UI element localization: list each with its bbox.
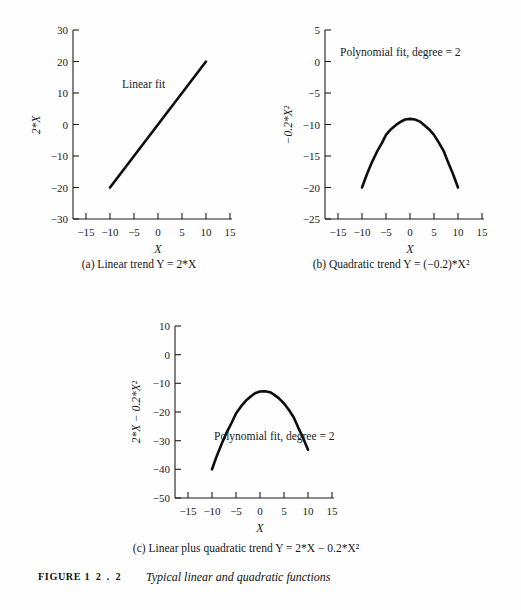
panel-quadratic-trend: 5 0 −5 −10 −15 −20 −25 −15 −10 −5 bbox=[276, 14, 506, 254]
y-tick-label: 5 bbox=[315, 24, 321, 36]
y-tick-label: −20 bbox=[153, 406, 171, 418]
y-tick-label: −15 bbox=[303, 150, 321, 162]
y-tick-label: −10 bbox=[51, 150, 69, 162]
x-axis-title: X bbox=[153, 242, 162, 256]
figure-label: FIGURE 1 2 . 2 bbox=[38, 571, 122, 582]
y-tick-label: 0 bbox=[63, 119, 69, 131]
x-tick-label: −15 bbox=[179, 505, 197, 517]
panel-b-y-ticks bbox=[325, 30, 331, 219]
x-tick-label: −15 bbox=[77, 226, 95, 238]
panel-c-caption: (c) Linear plus quadratic trend Y = 2*X … bbox=[96, 542, 396, 556]
figure-number: 1 2 . 2 bbox=[84, 571, 122, 582]
x-axis-title: X bbox=[255, 521, 264, 535]
y-tick-label: 0 bbox=[315, 56, 321, 68]
panel-a-y-ticks bbox=[73, 30, 79, 219]
y-tick-label: 0 bbox=[165, 349, 171, 361]
x-tick-label: 0 bbox=[407, 226, 413, 238]
panel-a-x-ticks bbox=[86, 213, 230, 219]
panel-b-x-tick-labels: −15 −10 −5 0 5 10 15 bbox=[329, 226, 488, 238]
y-tick-label: 30 bbox=[57, 24, 69, 36]
x-tick-label: −10 bbox=[203, 505, 221, 517]
panel-a-x-tick-labels: −15 −10 −5 0 5 10 15 bbox=[77, 226, 236, 238]
y-tick-label: −40 bbox=[153, 463, 171, 475]
x-tick-label: 0 bbox=[257, 505, 263, 517]
x-tick-label: −5 bbox=[128, 226, 140, 238]
x-tick-label: 10 bbox=[453, 226, 465, 238]
panel-linear-plus-quadratic-trend: 10 0 −10 −20 −30 −40 −50 −15 −10 −5 bbox=[126, 312, 356, 544]
y-tick-label: −25 bbox=[303, 213, 321, 225]
figure-label-prefix: FIGURE bbox=[38, 571, 81, 582]
panel-a-y-tick-labels: 30 20 10 0 −10 −20 −30 bbox=[51, 24, 69, 225]
y-tick-label: −50 bbox=[153, 492, 171, 504]
x-tick-label: 15 bbox=[225, 226, 237, 238]
panel-b-caption: (b) Quadratic trend Y = (−0.2)*X² bbox=[262, 258, 520, 272]
y-tick-label: 10 bbox=[57, 87, 69, 99]
panel-b-x-ticks bbox=[338, 213, 482, 219]
x-tick-label: −10 bbox=[353, 226, 371, 238]
curve-annotation: Linear fit bbox=[122, 78, 166, 90]
y-tick-label: −10 bbox=[153, 377, 171, 389]
figure-page: 30 20 10 0 −10 −20 −30 −15 −10 bbox=[0, 0, 521, 610]
x-tick-label: −5 bbox=[230, 505, 242, 517]
y-tick-label: −10 bbox=[303, 119, 321, 131]
x-tick-label: 5 bbox=[431, 226, 437, 238]
y-tick-label: 20 bbox=[57, 56, 69, 68]
figure-title: Typical linear and quadratic functions bbox=[146, 570, 330, 585]
panel-c-y-ticks bbox=[175, 326, 181, 498]
panel-b-y-tick-labels: 5 0 −5 −10 −15 −20 −25 bbox=[303, 24, 321, 225]
y-axis-title: −0.2*X² bbox=[282, 105, 294, 144]
x-tick-label: −15 bbox=[329, 226, 347, 238]
curve-annotation: Polynomial fit, degree = 2 bbox=[214, 430, 335, 443]
y-tick-label: −30 bbox=[51, 213, 69, 225]
y-tick-label: −30 bbox=[153, 435, 171, 447]
x-tick-label: 5 bbox=[179, 226, 185, 238]
x-axis-title: X bbox=[405, 242, 414, 256]
x-tick-label: 5 bbox=[281, 505, 287, 517]
x-tick-label: 10 bbox=[201, 226, 213, 238]
y-axis-title: 2*X − 0.2*X² bbox=[130, 380, 142, 443]
panel-c-x-tick-labels: −15 −10 −5 0 5 10 15 bbox=[179, 505, 338, 517]
y-tick-label: −20 bbox=[303, 182, 321, 194]
y-axis-title: 2*X bbox=[30, 115, 42, 135]
x-tick-label: −10 bbox=[101, 226, 119, 238]
x-tick-label: 0 bbox=[155, 226, 161, 238]
y-tick-label: −20 bbox=[51, 182, 69, 194]
x-tick-label: 15 bbox=[327, 505, 339, 517]
x-tick-label: 15 bbox=[477, 226, 489, 238]
panel-c-y-tick-labels: 10 0 −10 −20 −30 −40 −50 bbox=[153, 320, 171, 504]
x-tick-label: 10 bbox=[303, 505, 315, 517]
x-tick-label: −5 bbox=[380, 226, 392, 238]
panel-a-caption: (a) Linear trend Y = 2*X bbox=[24, 258, 254, 272]
panel-c-x-ticks bbox=[188, 492, 332, 498]
y-tick-label: −5 bbox=[308, 87, 320, 99]
data-curve-quadratic bbox=[362, 119, 458, 188]
curve-annotation: Polynomial fit, degree = 2 bbox=[340, 46, 461, 59]
panel-b-axes bbox=[325, 30, 484, 219]
panel-c-axes bbox=[175, 326, 334, 498]
panel-linear-trend: 30 20 10 0 −10 −20 −30 −15 −10 bbox=[24, 14, 254, 254]
panel-a-axes bbox=[73, 30, 232, 219]
y-tick-label: 10 bbox=[159, 320, 171, 332]
